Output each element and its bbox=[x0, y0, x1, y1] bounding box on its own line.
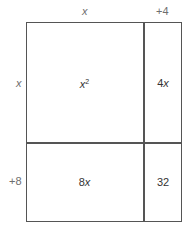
cell-8x: 8x bbox=[26, 176, 143, 188]
cell-4x: 4x bbox=[144, 77, 182, 89]
cell-x-squared-exponent: 2 bbox=[85, 78, 89, 85]
top-label-plus4: +4 bbox=[156, 5, 169, 17]
vertical-divider bbox=[143, 22, 145, 222]
top-label-x: x bbox=[82, 5, 88, 17]
side-label-plus8: +8 bbox=[9, 175, 22, 187]
side-label-x: x bbox=[16, 77, 22, 89]
horizontal-divider bbox=[26, 142, 182, 144]
cell-x-squared: x2 bbox=[26, 76, 143, 90]
area-model-outline bbox=[26, 22, 182, 222]
cell-4x-var: x bbox=[163, 77, 169, 89]
cell-8x-var: x bbox=[85, 176, 91, 188]
cell-32: 32 bbox=[144, 176, 182, 188]
